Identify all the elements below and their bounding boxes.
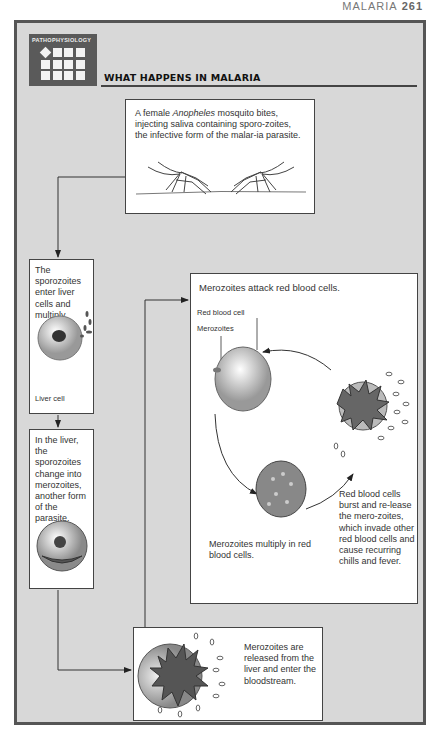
step-rbc-attack: Merozoites attack red blood cells. Red b… — [190, 273, 418, 604]
burst-text: Red blood cells burst and re-lease the m… — [339, 489, 417, 567]
pathophysiology-panel: PATHOPHYSIOLOGY WHAT HAPPENS IN MALARIA … — [14, 20, 426, 725]
mosquito-illustration — [136, 152, 306, 207]
liver-change-text: In the liver, the sporozoites change int… — [35, 435, 88, 525]
ruptured-liver-cell-illustration — [136, 628, 236, 720]
section-name: MALARIA — [342, 0, 397, 12]
mosquito-text: A female Anopheles mosquito bites, injec… — [135, 108, 305, 142]
liver-cell-label: Liver cell — [35, 394, 65, 403]
step-liver-entry: The sporozoites enter liver cells and mu… — [29, 259, 94, 414]
multiply-text: Merozoites multiply in red blood cells. — [209, 539, 319, 561]
release-text: Merozoites are released from the liver a… — [244, 642, 319, 687]
step-liver-change: In the liver, the sporozoites change int… — [29, 429, 94, 589]
liver-cell-illustration — [35, 308, 95, 368]
page-number: 261 — [402, 0, 423, 12]
running-head: MALARIA261 — [342, 0, 423, 12]
step-release-bloodstream: Merozoites are released from the liver a… — [133, 627, 323, 721]
step-mosquito-bite: A female Anopheles mosquito bites, injec… — [125, 99, 315, 214]
rbc-heading: Merozoites attack red blood cells. — [199, 282, 409, 293]
liver-cell-merozoites-illustration — [34, 518, 94, 578]
